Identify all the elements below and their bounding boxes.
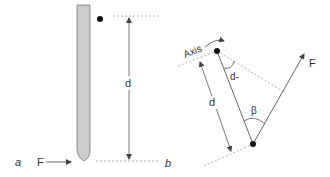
panel-b: F d d- β Axis b [165,40,316,169]
pivot-dot [97,16,103,22]
rod [77,5,90,161]
panel-a: d F a [15,5,158,168]
axis-dot [214,48,220,54]
beta-label: β [251,105,257,116]
lever-line [217,51,253,144]
right-angle-arc [224,61,234,68]
application-point-dot [250,141,256,147]
bottom-reference-line-b [204,144,253,166]
force-label-b: F [309,57,316,69]
axis-label: Axis [182,43,204,60]
panel-a-label: a [15,156,21,168]
perpendicular-line [217,51,284,92]
panel-b-label: b [165,157,171,169]
force-label: F [37,156,44,168]
beta-angle-arc [244,118,265,124]
perp-distance-label: d- [230,71,239,82]
diagram-canvas: d F a F d d- β Axis b [0,0,330,177]
rotation-arrow [205,40,224,47]
distance-label: d [125,77,131,89]
force-vector [253,54,304,144]
distance-label-b: d [209,96,215,108]
